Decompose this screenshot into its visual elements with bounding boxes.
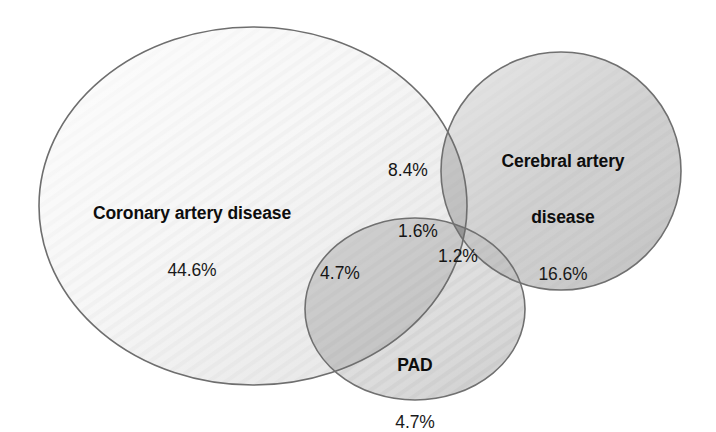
venn-diagram-canvas	[0, 0, 716, 419]
venn-diagram-figure: Coronary artery disease 44.6% Cerebral a…	[0, 0, 716, 419]
